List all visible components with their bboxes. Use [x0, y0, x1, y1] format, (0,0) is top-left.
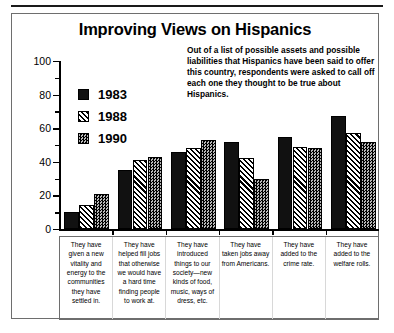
x-tick: [326, 229, 327, 235]
bar-1983: [278, 137, 293, 229]
y-tick-label: 0: [45, 223, 51, 235]
x-axis-label: They have taken jobs away from Americans…: [220, 237, 273, 319]
x-tick: [112, 229, 113, 235]
plot-area: 020406080100: [59, 61, 379, 229]
x-axis-label: They have introduced things to our socie…: [166, 237, 219, 319]
y-tick: [53, 61, 60, 62]
bar-group: [171, 61, 216, 229]
bar-group: [331, 61, 376, 229]
x-axis-label: They have helped fill jobs that otherwis…: [113, 237, 166, 319]
chart-frame: Improving Views on Hispanics Out of a li…: [11, 13, 379, 319]
bar-1988: [79, 205, 94, 229]
y-tick: [55, 78, 60, 79]
y-tick-label: 100: [33, 55, 51, 67]
bar-group: [118, 61, 163, 229]
y-tick-label: 60: [39, 122, 51, 134]
x-axis-label: They have added to the crime rate.: [273, 237, 326, 319]
bar-group: [278, 61, 323, 229]
y-tick: [53, 162, 60, 163]
bar-1990: [148, 157, 163, 229]
y-tick-label: 20: [39, 189, 51, 201]
y-tick-label: 80: [39, 89, 51, 101]
bar-1990: [254, 179, 269, 229]
bar-1983: [64, 212, 79, 229]
y-tick: [53, 195, 60, 196]
x-axis-label: They have given a new vitality and energ…: [60, 237, 113, 319]
x-tick: [272, 229, 273, 235]
chart-title: Improving Views on Hispanics: [12, 20, 378, 39]
top-rule: [11, 5, 383, 7]
bar-1990: [308, 148, 323, 229]
bar-1990: [201, 140, 216, 229]
x-tick: [166, 229, 167, 235]
bar-1990: [361, 142, 376, 229]
bar-1983: [331, 116, 346, 229]
y-tick: [55, 111, 60, 112]
bar-group: [224, 61, 269, 229]
x-axis-label-band: They have given a new vitality and energ…: [59, 236, 379, 320]
bar-1990: [94, 194, 109, 229]
bar-1983: [224, 142, 239, 229]
bar-1988: [186, 148, 201, 229]
bar-1983: [171, 152, 186, 229]
x-tick: [219, 229, 220, 235]
bar-1988: [133, 160, 148, 229]
y-tick: [53, 229, 60, 230]
bar-1983: [118, 170, 133, 229]
y-tick: [53, 95, 60, 96]
y-tick: [55, 145, 60, 146]
y-tick-label: 40: [39, 156, 51, 168]
chart-figure: Improving Views on Hispanics Out of a li…: [0, 0, 394, 333]
bar-1988: [239, 158, 254, 229]
bar-1988: [346, 133, 361, 229]
y-tick: [53, 128, 60, 129]
bar-1988: [293, 147, 308, 229]
y-tick: [55, 179, 60, 180]
x-axis-label: They have added to the welfare rolls.: [326, 237, 378, 319]
bar-group: [64, 61, 109, 229]
y-tick: [55, 212, 60, 213]
